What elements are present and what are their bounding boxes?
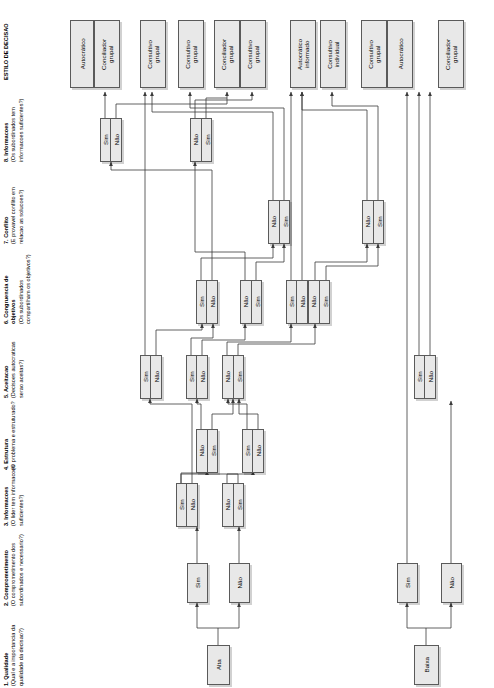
node-cell-sim[interactable]: Sim xyxy=(414,356,425,398)
node-cell-nao[interactable]: Não xyxy=(190,119,201,161)
decision-node-c2-nao-alta[interactable]: Não xyxy=(229,563,250,603)
cell-label: Não xyxy=(224,371,231,382)
column-subtitle: (Os subordinados tem informacoes suficie… xyxy=(10,92,25,162)
decision-node-c6-c[interactable]: Sim Não xyxy=(286,280,308,324)
outcome-node[interactable]: Conciliador grupal xyxy=(94,20,120,88)
outcome-node[interactable]: Conciliador grupal xyxy=(438,20,464,88)
outcome-node[interactable]: Consultivo grupal xyxy=(140,20,166,88)
decision-node-c2-sim-alta[interactable]: Sim xyxy=(187,563,208,603)
node-cell-nao[interactable]: Não xyxy=(186,484,198,526)
outcome-node[interactable]: Consultivo individual xyxy=(320,20,346,88)
cell-label: Sim xyxy=(376,217,383,228)
node-cell-nao[interactable]: Não xyxy=(252,430,264,472)
node-cell-sim[interactable]: Sim xyxy=(207,430,219,472)
node-cell-sim[interactable]: Sim xyxy=(319,281,331,323)
cell-label: Sim xyxy=(210,446,217,457)
node-cell-nao[interactable]: Não xyxy=(196,356,208,398)
column-title: 1. Qualidade xyxy=(3,616,10,686)
node-cell-nao[interactable]: Não xyxy=(268,201,279,243)
node-cell-sim[interactable]: Sim xyxy=(233,484,245,526)
decision-node-c5-d[interactable]: Sim Não xyxy=(414,355,436,399)
cell-label: Sim xyxy=(322,297,329,308)
decision-node-c8-b[interactable]: Não Sim xyxy=(190,118,212,162)
column-title: 5. Aceitacao xyxy=(3,328,10,398)
node-cell-nao[interactable]: Não xyxy=(362,201,373,243)
node-cell-sim[interactable]: Sim xyxy=(279,201,291,243)
node-cell-sim[interactable]: Sim xyxy=(140,356,151,398)
decision-node-c2-nao-baixa[interactable]: Não xyxy=(441,563,462,603)
cell-label: Não xyxy=(310,296,317,307)
node-cell-sim[interactable]: Sim xyxy=(242,430,253,472)
cell-label: Não xyxy=(189,499,196,510)
cell-label: Sim xyxy=(404,578,411,589)
root-node-baixa[interactable]: Baixa xyxy=(414,645,439,685)
node-cell-sim[interactable]: Sim xyxy=(251,281,263,323)
outcome-label: Consultivo grupal xyxy=(367,40,382,69)
cell-label: Não xyxy=(242,296,249,307)
decision-node-c6-a[interactable]: Sim Não xyxy=(196,280,218,324)
node-cell-sim[interactable]: Sim xyxy=(100,119,111,161)
cell-label: Sim xyxy=(197,297,204,308)
column-title: ESTILO DE DECISAO xyxy=(3,20,10,80)
cell-label: Não xyxy=(364,216,371,227)
decision-node-c5-a[interactable]: Sim Não xyxy=(140,355,162,399)
cell-label: Não xyxy=(224,499,231,510)
cell-label: Sim xyxy=(287,297,294,308)
node-cell-nao[interactable]: Não xyxy=(222,484,233,526)
decision-node-c4-b[interactable]: Sim Não xyxy=(242,429,264,473)
node-cell-sim[interactable]: Sim xyxy=(186,356,197,398)
cell-label: Sim xyxy=(236,372,243,383)
outcome-node[interactable]: Consultivo grupal xyxy=(178,20,204,88)
node-cell-nao[interactable]: Não xyxy=(150,356,162,398)
column-title: 2. Comprometimento xyxy=(3,516,10,606)
node-cell-nao[interactable]: Não xyxy=(196,430,207,472)
node-cell-sim[interactable]: Sim xyxy=(286,281,297,323)
outcome-label: Conciliador grupal xyxy=(444,39,459,70)
cell-label: Sim xyxy=(243,446,250,457)
node-cell-nao[interactable]: Não xyxy=(110,119,122,161)
cell-label: Sim xyxy=(415,372,422,383)
column-header-conflito: 7. Conflito (E provavel conflito em rela… xyxy=(3,174,25,244)
node-cell-sim[interactable]: Sim xyxy=(201,119,213,161)
root-node-alta[interactable]: Alta xyxy=(207,645,230,685)
decision-node-c6-b[interactable]: Não Sim xyxy=(240,280,262,324)
outcome-node[interactable]: Autocrático xyxy=(70,20,94,88)
cell-label: Não xyxy=(192,134,199,145)
cell-label: Sim xyxy=(187,372,194,383)
decision-node-c7-b[interactable]: Não Sim xyxy=(362,200,384,244)
node-cell-nao[interactable]: Não xyxy=(206,281,218,323)
cell-label: Sim xyxy=(236,500,243,511)
node-cell-nao[interactable]: Não xyxy=(308,281,319,323)
cell-label: Sim xyxy=(141,372,148,383)
cell-label: Não xyxy=(448,577,455,588)
decision-node-c4-a[interactable]: Não Sim xyxy=(196,429,218,473)
node-cell-nao[interactable]: Não xyxy=(222,356,233,398)
node-cell-nao[interactable]: Não xyxy=(424,356,436,398)
outcome-node[interactable]: Consultivo grupal xyxy=(361,20,387,88)
cell-label: Não xyxy=(209,296,216,307)
column-header-informacoes-subordinados: 8. Informacoes (Os subordinados tem info… xyxy=(3,92,25,162)
column-title: 7. Conflito xyxy=(3,174,10,244)
decision-node-c5-b[interactable]: Sim Não xyxy=(186,355,208,399)
node-cell-sim[interactable]: Sim xyxy=(373,201,385,243)
decision-node-c3-a[interactable]: Sim Não xyxy=(176,483,198,527)
outcome-label: Consultivo grupal xyxy=(184,40,199,69)
decision-node-c5-c[interactable]: Não Sim xyxy=(222,355,244,399)
decision-node-c3-b[interactable]: Não Sim xyxy=(222,483,244,527)
outcome-node[interactable]: Autocrático informado xyxy=(290,20,316,88)
node-cell-sim[interactable]: Sim xyxy=(196,281,207,323)
decision-node-c2-sim-baixa[interactable]: Sim xyxy=(397,563,418,603)
outcome-node[interactable]: Conciliador grupal xyxy=(214,20,240,88)
decision-node-c8-a[interactable]: Sim Não xyxy=(100,118,122,162)
outcome-node[interactable]: Autocrático xyxy=(387,20,413,88)
node-cell-sim[interactable]: Sim xyxy=(176,484,187,526)
outcome-node[interactable]: Consultivo grupal xyxy=(240,20,266,88)
node-cell-sim[interactable]: Sim xyxy=(233,356,245,398)
decision-tree-diagram: 1. Qualidade (Qual e a importancia da qu… xyxy=(0,0,494,688)
cell-label: Não xyxy=(427,371,434,382)
cell-label: Sim xyxy=(204,135,211,146)
root-label: Alta xyxy=(215,660,222,671)
decision-node-c7-a[interactable]: Não Sim xyxy=(268,200,290,244)
node-cell-nao[interactable]: Não xyxy=(240,281,251,323)
decision-node-c6-d[interactable]: Não Sim xyxy=(308,280,330,324)
